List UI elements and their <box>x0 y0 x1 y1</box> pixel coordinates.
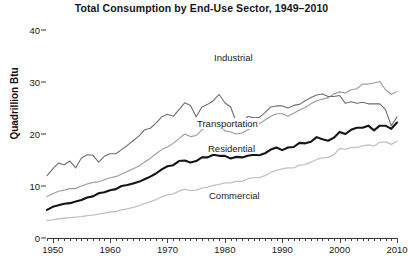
x-tick-major <box>340 238 341 243</box>
x-tick-minor <box>162 238 163 241</box>
x-tick-minor <box>328 238 329 241</box>
x-tick-minor <box>87 238 88 241</box>
x-tick-minor <box>288 238 289 241</box>
x-tick-major <box>53 238 54 243</box>
x-tick-minor <box>265 238 266 241</box>
x-tick-minor <box>322 238 323 241</box>
x-tick-minor <box>345 238 346 241</box>
x-tick-minor <box>133 238 134 241</box>
x-tick-minor <box>156 238 157 241</box>
x-tick-minor <box>93 238 94 241</box>
x-tick-label: 1960 <box>100 244 121 255</box>
x-tick-major <box>225 238 226 243</box>
x-tick-minor <box>76 238 77 241</box>
x-tick-minor <box>58 238 59 241</box>
x-tick-minor <box>351 238 352 241</box>
x-tick-minor <box>254 238 255 241</box>
x-tick-label: 2010 <box>386 244 407 255</box>
x-tick-minor <box>248 238 249 241</box>
x-tick-minor <box>202 238 203 241</box>
x-tick-minor <box>334 238 335 241</box>
x-tick-minor <box>368 238 369 241</box>
x-tick-minor <box>104 238 105 241</box>
x-tick-minor <box>231 238 232 241</box>
x-tick-minor <box>127 238 128 241</box>
x-tick-minor <box>150 238 151 241</box>
x-tick-label: 1990 <box>272 244 293 255</box>
x-tick-label: 1950 <box>42 244 63 255</box>
x-tick-minor <box>391 238 392 241</box>
series-label-industrial: Industrial <box>213 52 254 63</box>
x-tick-major <box>167 238 168 243</box>
x-tick-major <box>110 238 111 243</box>
x-tick-minor <box>317 238 318 241</box>
x-tick-minor <box>116 238 117 241</box>
x-tick-minor <box>357 238 358 241</box>
x-tick-minor <box>236 238 237 241</box>
x-tick-major <box>282 238 283 243</box>
x-tick-minor <box>213 238 214 241</box>
x-tick-minor <box>70 238 71 241</box>
series-label-residential: Residential <box>207 143 256 154</box>
x-tick-label: 2000 <box>329 244 350 255</box>
x-tick-minor <box>145 238 146 241</box>
x-tick-minor <box>173 238 174 241</box>
x-tick-minor <box>271 238 272 241</box>
x-tick-minor <box>299 238 300 241</box>
x-tick-minor <box>208 238 209 241</box>
x-tick-major <box>397 238 398 243</box>
x-tick-minor <box>219 238 220 241</box>
x-tick-minor <box>311 238 312 241</box>
x-tick-minor <box>122 238 123 241</box>
x-tick-label: 1970 <box>157 244 178 255</box>
x-tick-minor <box>294 238 295 241</box>
x-tick-minor <box>374 238 375 241</box>
x-tick-minor <box>185 238 186 241</box>
x-tick-minor <box>277 238 278 241</box>
x-tick-minor <box>139 238 140 241</box>
series-label-commercial: Commercial <box>208 190 261 201</box>
x-tick-minor <box>190 238 191 241</box>
x-tick-minor <box>196 238 197 241</box>
x-tick-minor <box>259 238 260 241</box>
x-tick-minor <box>386 238 387 241</box>
x-tick-minor <box>81 238 82 241</box>
x-tick-label: 1980 <box>214 244 235 255</box>
x-tick-minor <box>99 238 100 241</box>
series-label-transportation: Transportation <box>196 118 259 129</box>
x-tick-minor <box>64 238 65 241</box>
x-tick-minor <box>380 238 381 241</box>
x-tick-minor <box>242 238 243 241</box>
x-tick-minor <box>179 238 180 241</box>
x-tick-minor <box>363 238 364 241</box>
x-tick-minor <box>47 238 48 241</box>
x-tick-minor <box>305 238 306 241</box>
